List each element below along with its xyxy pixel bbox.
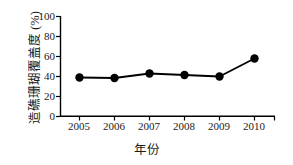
x-tick-label-2005: 2005 (62, 121, 96, 132)
x-tick-label-2006: 2006 (97, 121, 131, 132)
data-point-2008 (180, 71, 188, 79)
data-line (80, 59, 255, 79)
data-point-2005 (75, 73, 83, 81)
x-axis-title: 年份 (0, 139, 293, 158)
data-point-2006 (110, 74, 118, 82)
coral-coverage-line-chart: 造礁珊瑚覆盖度 (%) 100 80 60 40 20 0 (0, 0, 293, 165)
data-point-2010 (250, 54, 258, 62)
x-tick-label-2010: 2010 (237, 121, 271, 132)
x-tick-label-2009: 2009 (202, 121, 236, 132)
data-point-2009 (215, 72, 223, 80)
x-tick-label-2007: 2007 (132, 121, 166, 132)
data-point-2007 (145, 69, 153, 77)
x-tick-label-2008: 2008 (167, 121, 201, 132)
